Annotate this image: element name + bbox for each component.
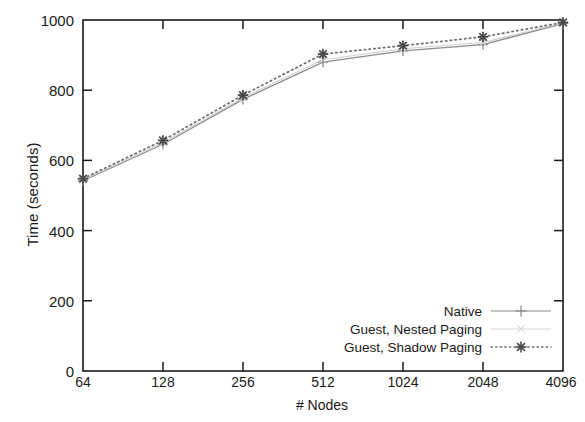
data-point-marker — [318, 49, 328, 59]
legend-label-shadow: Guest, Shadow Paging — [344, 340, 490, 355]
legend-label-native: Native — [444, 304, 490, 319]
data-point-marker — [478, 32, 488, 42]
legend-key-nested-icon — [490, 321, 552, 337]
series-line-guest-shadow-paging — [83, 22, 563, 178]
plot-area — [0, 0, 585, 422]
legend-key-shadow-icon — [490, 339, 552, 355]
legend-item-native: Native — [300, 302, 552, 320]
data-point-marker — [158, 135, 168, 145]
data-point-marker — [78, 173, 88, 183]
legend-label-nested: Guest, Nested Paging — [350, 322, 490, 337]
chart-figure: Time (seconds) 1000 800 600 400 200 0 64… — [0, 0, 585, 422]
data-point-marker — [558, 17, 568, 27]
data-series-layer — [78, 17, 568, 186]
legend-key-native-icon — [490, 303, 552, 319]
data-point-marker — [238, 90, 248, 100]
legend-item-nested: Guest, Nested Paging — [300, 320, 552, 338]
series-line-guest-nested-paging — [83, 23, 563, 180]
data-point-marker — [398, 40, 408, 50]
series-line-native — [83, 24, 563, 181]
legend-item-shadow: Guest, Shadow Paging — [300, 338, 552, 356]
chart-legend: Native Guest, Nested Paging — [300, 302, 552, 356]
